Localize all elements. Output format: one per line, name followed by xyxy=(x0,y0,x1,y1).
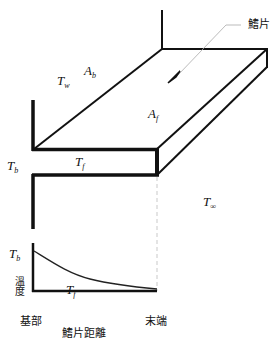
chart-x-tick-base: 基部 xyxy=(20,316,42,327)
label-Tf-fin: Tf xyxy=(75,155,84,171)
fin-callout-label: 鰭片 xyxy=(248,19,270,30)
fin-diagram xyxy=(0,0,279,349)
fin-top-right-diagonal xyxy=(157,49,267,149)
fin-bottom-right-diagonal xyxy=(157,67,267,175)
label-Af: Af xyxy=(148,107,158,123)
label-Ab: Ab xyxy=(84,64,96,80)
chart-x-tick-tip: 末端 xyxy=(145,316,167,327)
fin-top-left-diagonal xyxy=(34,49,162,149)
label-Tb-base: Tb xyxy=(7,159,18,175)
label-Tw: Tw xyxy=(57,74,70,90)
chart-x-axis-label: 鰭片距離 xyxy=(62,328,106,339)
temperature-curve xyxy=(34,251,157,289)
chart-y-axis-label: 溫度 xyxy=(13,276,23,296)
callout-arrow-icon xyxy=(168,71,180,83)
chart-curve-label-Tf: Tf xyxy=(66,283,75,299)
chart-y-top-label-Tb: Tb xyxy=(9,247,20,263)
label-T-infinity: T∞ xyxy=(203,195,216,211)
